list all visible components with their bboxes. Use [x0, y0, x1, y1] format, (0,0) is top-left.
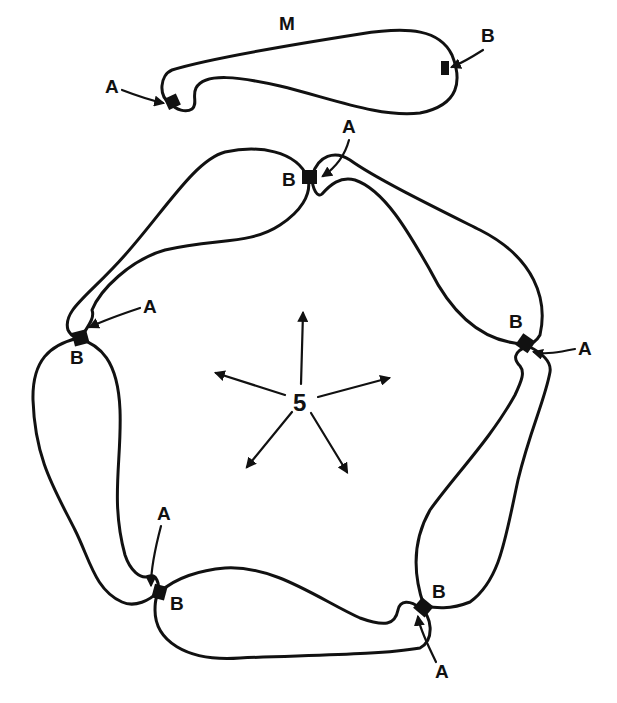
- junction-right-b-label: B: [509, 311, 523, 332]
- arrow-up-icon: [301, 313, 303, 384]
- junction-top-block: [302, 170, 317, 184]
- arrow-upleft-icon: [216, 373, 285, 395]
- junction-right-a-arrow: [534, 349, 575, 353]
- junction-right-a-label: A: [578, 338, 592, 359]
- monomer-site-b-block: [441, 61, 449, 75]
- junction-left-block: [71, 329, 89, 346]
- junction-top-a-label: A: [342, 116, 356, 137]
- ring-unit-2: [312, 155, 542, 344]
- ring-unit-4: [155, 568, 430, 659]
- monomer-site-a-block: [164, 94, 181, 110]
- ring-unit-3: [416, 346, 550, 608]
- ring-unit-5: [33, 338, 159, 604]
- junction-bottom-right-a-label: A: [435, 661, 449, 682]
- monomer-site-a-label: A: [105, 76, 119, 97]
- monomer-label: M: [279, 13, 295, 34]
- junction-bottom-left-a-label: A: [157, 503, 171, 524]
- junction-left-a-arrow: [90, 308, 140, 327]
- monomer-site-b-label: B: [481, 25, 495, 46]
- junction-top-b-label: B: [282, 169, 296, 190]
- junction-bottom-right-block: [413, 597, 433, 617]
- monomer-outline: [162, 30, 457, 114]
- junction-bottom-right-b-label: B: [432, 581, 446, 602]
- arrow-downright-icon: [311, 413, 347, 472]
- monomer-site-a-arrow: [122, 90, 163, 103]
- ring-unit-1: [67, 149, 309, 337]
- arrow-downleft-icon: [247, 412, 292, 467]
- junction-left-a-label: A: [143, 296, 157, 317]
- monomer: M A B: [105, 13, 495, 114]
- fivefold-symmetry-arrows: 5: [216, 313, 389, 472]
- symmetry-number-label: 5: [293, 389, 306, 416]
- arrow-upright-icon: [318, 378, 389, 397]
- monomer-site-b-arrow: [452, 50, 483, 67]
- junction-left-b-label: B: [70, 347, 84, 368]
- pentamer-assembly-diagram: M A B B A B A B A B: [0, 0, 617, 703]
- junction-bottom-left-b-label: B: [170, 593, 184, 614]
- pentamer-ring: B A B A B A B A B A 5: [33, 116, 592, 682]
